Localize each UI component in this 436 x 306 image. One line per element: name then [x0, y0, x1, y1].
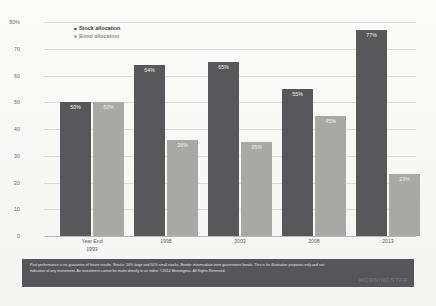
chart-legend: Stock allocation Bond allocation [74, 25, 120, 41]
bar-value-label-stock-1998: 64% [134, 68, 165, 73]
y-tick-label-60: 60 [0, 74, 20, 79]
x-axis-caption: Year End [60, 238, 124, 246]
footer-disclaimer-band: Past performance is no guarantee of futu… [22, 259, 414, 287]
bar-group-2008: 55%45% [282, 22, 346, 236]
bar-group-1993: 50%50% [60, 22, 124, 236]
bar-bond-2013: 23% [389, 174, 420, 236]
bar-value-label-stock-2003: 65% [208, 65, 239, 70]
bar-group-2003: 65%35% [208, 22, 272, 236]
y-tick-label-40: 40 [0, 127, 20, 132]
legend-swatch-stock-icon [74, 28, 77, 31]
y-tick-label-70: 70 [0, 47, 20, 52]
bar-stock-1993: 50% [60, 102, 91, 236]
bar-value-label-bond-2003: 35% [241, 145, 272, 150]
x-tick-year-2008: 2008 [308, 238, 320, 244]
bar-bond-1998: 36% [167, 140, 198, 236]
footer-disclaimer-text: Past performance is no guarantee of futu… [30, 263, 330, 275]
bar-value-label-stock-2013: 77% [356, 33, 387, 38]
bar-bond-2008: 45% [315, 116, 346, 236]
x-tick-year-1998: 1998 [160, 238, 172, 244]
x-tick-year-1993: 1993 [86, 246, 98, 252]
chart-page: 80%706050403020100 50%50%64%36%65%35%55%… [0, 0, 436, 306]
bar-stock-1998: 64% [134, 65, 165, 236]
y-tick-label-50: 50 [0, 100, 20, 105]
bar-value-label-bond-2013: 23% [389, 177, 420, 182]
legend-item-stock: Stock allocation [74, 25, 120, 33]
bar-value-label-stock-2008: 55% [282, 92, 313, 97]
legend-label-stock: Stock allocation [79, 25, 120, 33]
y-tick-label-80: 80% [0, 20, 20, 25]
plot-area: 80%706050403020100 50%50%64%36%65%35%55%… [44, 22, 416, 236]
x-tick-year-2013: 2013 [382, 238, 394, 244]
bar-bond-1993: 50% [93, 102, 124, 236]
y-tick-label-30: 30 [0, 154, 20, 159]
y-tick-label-20: 20 [0, 181, 20, 186]
legend-swatch-bond-icon [74, 35, 77, 38]
bar-groups: 50%50%64%36%65%35%55%45%77%23% [44, 22, 416, 236]
bar-value-label-stock-1993: 50% [60, 105, 91, 110]
bar-value-label-bond-1998: 36% [167, 143, 198, 148]
brand-wordmark: MORNINGSTAR [359, 277, 408, 283]
x-tick-year-2003: 2003 [234, 238, 246, 244]
bar-value-label-bond-1993: 50% [93, 105, 124, 110]
legend-label-bond: Bond allocation [79, 33, 119, 41]
bar-group-1998: 64%36% [134, 22, 198, 236]
bar-stock-2003: 65% [208, 62, 239, 236]
x-axis-tick-labels: Year End19931998200320082013 [44, 238, 416, 256]
bar-stock-2008: 55% [282, 89, 313, 236]
legend-item-bond: Bond allocation [74, 33, 120, 41]
x-tick-label-1998: 1998 [134, 238, 198, 246]
y-tick-label-0: 0 [0, 234, 20, 239]
x-tick-label-1993: Year End1993 [60, 238, 124, 254]
bar-stock-2013: 77% [356, 30, 387, 236]
gridline-0 [44, 236, 416, 237]
y-tick-label-10: 10 [0, 207, 20, 212]
bar-value-label-bond-2008: 45% [315, 119, 346, 124]
x-tick-label-2013: 2013 [356, 238, 420, 246]
x-tick-label-2003: 2003 [208, 238, 272, 246]
bar-group-2013: 77%23% [356, 22, 420, 236]
x-tick-label-2008: 2008 [282, 238, 346, 246]
bar-bond-2003: 35% [241, 142, 272, 236]
